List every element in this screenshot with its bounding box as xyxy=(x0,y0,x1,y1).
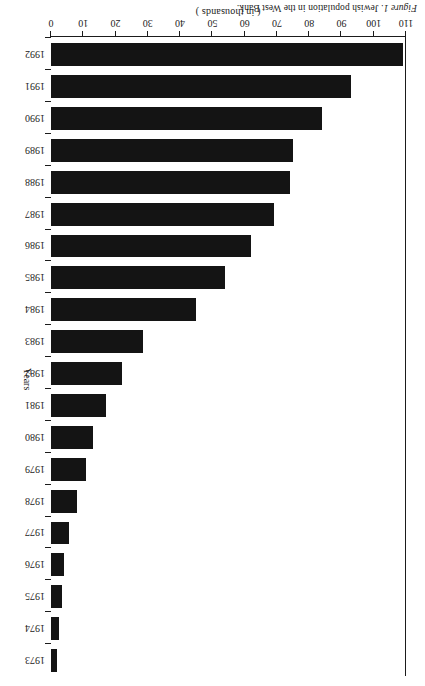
bar xyxy=(51,171,290,194)
category-tick xyxy=(45,37,51,38)
category-tick-label: 1973 xyxy=(7,655,45,666)
value-tick xyxy=(147,31,148,37)
bar-row: 1989 xyxy=(51,134,406,166)
category-tick-label: 1983 xyxy=(7,336,45,347)
bar-row: 1986 xyxy=(51,230,406,262)
bar xyxy=(51,330,143,353)
bar-row: 1977 xyxy=(51,517,406,549)
bar-row: 1991 xyxy=(51,70,406,102)
category-tick-label: 1988 xyxy=(7,176,45,187)
bar xyxy=(51,617,59,640)
value-tick-label: 110 xyxy=(391,18,421,29)
value-tick xyxy=(340,31,341,37)
bar xyxy=(51,394,106,417)
bar-row: 1992 xyxy=(51,38,406,70)
bar xyxy=(51,235,251,258)
category-tick-label: 1991 xyxy=(7,81,45,92)
value-tick-label: 90 xyxy=(326,18,356,29)
value-tick-label: 100 xyxy=(359,18,389,29)
bar-row: 1983 xyxy=(51,325,406,357)
value-tick xyxy=(82,31,83,37)
bar xyxy=(51,490,77,513)
category-tick-label: 1989 xyxy=(7,144,45,155)
value-tick-label: 60 xyxy=(230,18,260,29)
value-tick-label: 10 xyxy=(68,18,98,29)
bar-row: 1990 xyxy=(51,102,406,134)
bar xyxy=(51,107,322,130)
bar-row: 1984 xyxy=(51,293,406,325)
value-tick xyxy=(244,31,245,37)
value-tick xyxy=(50,31,51,37)
bar-row: 1987 xyxy=(51,198,406,230)
bar-row: 1988 xyxy=(51,166,406,198)
category-tick-label: 1987 xyxy=(7,208,45,219)
value-tick xyxy=(179,31,180,37)
bar-row: 1979 xyxy=(51,453,406,485)
category-tick-label: 1980 xyxy=(7,431,45,442)
category-tick-label: 1975 xyxy=(7,591,45,602)
value-tick xyxy=(115,31,116,37)
category-tick-label: 1981 xyxy=(7,399,45,410)
value-tick-label: 50 xyxy=(197,18,227,29)
category-tick-label: 1984 xyxy=(7,304,45,315)
category-tick-label: 1979 xyxy=(7,463,45,474)
bar xyxy=(51,522,69,545)
value-tick xyxy=(211,31,212,37)
bar-row: 1975 xyxy=(51,580,406,612)
bar-row: 1980 xyxy=(51,421,406,453)
category-tick-label: 1992 xyxy=(7,49,45,60)
bar xyxy=(51,75,351,98)
value-axis-ticks: 0102030405060708090100110 xyxy=(50,36,406,37)
value-tick-label: 40 xyxy=(165,18,195,29)
category-tick-label: 1990 xyxy=(7,112,45,123)
bar xyxy=(51,585,62,608)
bar-row: 1976 xyxy=(51,548,406,580)
figure-page: Figure 1. Jewish population in the West … xyxy=(0,0,425,686)
value-tick-label: 20 xyxy=(101,18,131,29)
value-tick-label: 0 xyxy=(36,18,66,29)
bar xyxy=(51,649,57,672)
bar-row: 1973 xyxy=(51,644,406,676)
bar-row: 1981 xyxy=(51,389,406,421)
category-tick-label: 1976 xyxy=(7,559,45,570)
category-tick-label: 1974 xyxy=(7,623,45,634)
category-tick-label: 1977 xyxy=(7,527,45,538)
plot-area: 1973197419751976197719781979198019811982… xyxy=(51,36,406,676)
bar xyxy=(51,139,293,162)
bar-row: 1985 xyxy=(51,261,406,293)
bar-row: 1974 xyxy=(51,612,406,644)
category-tick-label: 1978 xyxy=(7,495,45,506)
value-tick xyxy=(308,31,309,37)
bar xyxy=(51,458,87,481)
bar xyxy=(51,362,122,385)
value-tick xyxy=(405,31,406,37)
bar xyxy=(51,426,93,449)
bar xyxy=(51,298,196,321)
bar xyxy=(51,553,64,576)
category-tick-label: 1985 xyxy=(7,272,45,283)
bar xyxy=(51,266,225,289)
value-tick-label: 30 xyxy=(133,18,163,29)
value-tick xyxy=(276,31,277,37)
category-tick-label: 1986 xyxy=(7,240,45,251)
value-tick-label: 70 xyxy=(262,18,292,29)
bar-row: 1982 xyxy=(51,357,406,389)
category-axis-title: Years xyxy=(22,368,33,390)
bar-series: 1973197419751976197719781979198019811982… xyxy=(51,38,406,676)
value-axis-title: ( in thousands ) xyxy=(50,7,406,18)
value-tick xyxy=(373,31,374,37)
bar xyxy=(51,203,274,226)
bar-row: 1978 xyxy=(51,485,406,517)
value-tick-label: 80 xyxy=(294,18,324,29)
bar xyxy=(51,43,403,66)
